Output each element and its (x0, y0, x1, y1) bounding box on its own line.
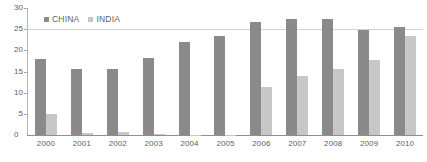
bar-group-2004 (172, 8, 208, 135)
x-axis-label-2005: 2005 (208, 140, 244, 148)
bar-group-2006 (243, 8, 279, 135)
bar-group-2009 (351, 8, 387, 135)
y-tick-label-zero: 0 (14, 131, 18, 139)
chart-legend: CHINA INDIA (44, 15, 120, 24)
bar-group-2008 (315, 8, 351, 135)
bar-india-2008[interactable] (333, 69, 344, 135)
bar-chart: CHINA INDIA 51015202530 0 20002001200220… (0, 0, 427, 162)
bar-china-2005[interactable] (214, 36, 225, 135)
bar-india-2000[interactable] (46, 114, 57, 135)
bar-china-2007[interactable] (286, 19, 297, 135)
x-axis-label-2010: 2010 (387, 140, 423, 148)
bar-china-2000[interactable] (35, 59, 46, 135)
legend-swatch-china-icon (44, 17, 49, 22)
bar-india-2002[interactable] (118, 132, 129, 135)
bar-india-2001[interactable] (82, 133, 93, 135)
x-axis-label-2007: 2007 (279, 140, 315, 148)
x-axis-label-2001: 2001 (64, 140, 100, 148)
y-tick-label: 10 (14, 89, 23, 97)
y-tick-label: 5 (19, 110, 23, 118)
bar-group-2003 (136, 8, 172, 135)
x-axis-label-2004: 2004 (172, 140, 208, 148)
x-axis-labels: 2000200120022003200420052006200720082009… (28, 140, 423, 148)
x-axis-label-2009: 2009 (351, 140, 387, 148)
bar-china-2002[interactable] (107, 69, 118, 135)
bar-group-2001 (64, 8, 100, 135)
y-tick-label: 25 (14, 25, 23, 33)
bar-group-2002 (100, 8, 136, 135)
x-axis-label-2000: 2000 (28, 140, 64, 148)
bar-india-2009[interactable] (369, 60, 380, 135)
bar-series-container (28, 8, 423, 135)
bar-china-2008[interactable] (322, 19, 333, 135)
bar-india-2006[interactable] (261, 87, 272, 135)
legend-label-china: CHINA (52, 15, 79, 24)
bar-china-2009[interactable] (358, 30, 369, 135)
bar-china-2010[interactable] (394, 27, 405, 135)
x-axis-line (27, 135, 423, 136)
bar-china-2003[interactable] (143, 58, 154, 135)
bar-group-2007 (279, 8, 315, 135)
y-tick-label: 15 (14, 68, 23, 76)
bar-india-2010[interactable] (405, 36, 416, 135)
legend-swatch-india-icon (88, 17, 93, 22)
bar-china-2006[interactable] (250, 22, 261, 135)
plot-area: 51015202530 (27, 8, 423, 136)
legend-label-india: INDIA (96, 15, 120, 24)
bar-china-2001[interactable] (71, 69, 82, 135)
bar-india-2003[interactable] (154, 134, 165, 135)
x-axis-label-2003: 2003 (136, 140, 172, 148)
bar-india-2007[interactable] (297, 76, 308, 135)
x-axis-label-2006: 2006 (243, 140, 279, 148)
x-axis-label-2002: 2002 (100, 140, 136, 148)
bar-group-2005 (208, 8, 244, 135)
x-axis-label-2008: 2008 (315, 140, 351, 148)
bar-group-2000 (28, 8, 64, 135)
legend-item-china[interactable]: CHINA (44, 15, 79, 24)
bar-group-2010 (387, 8, 423, 135)
legend-item-india[interactable]: INDIA (88, 15, 120, 24)
y-tick-label: 20 (14, 46, 23, 54)
bar-china-2004[interactable] (179, 42, 190, 135)
y-tick-label: 30 (14, 4, 23, 12)
